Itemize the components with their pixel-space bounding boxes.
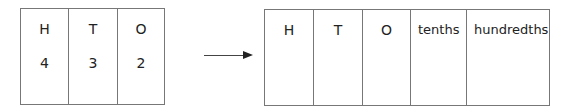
column-value: 2 — [118, 55, 164, 71]
arrow-right-icon — [204, 55, 246, 56]
column-header: tenths — [411, 22, 466, 37]
column-header: T — [314, 22, 362, 38]
column-ones: O — [363, 10, 411, 105]
column-hundreds: H 4 — [21, 9, 69, 104]
column-header: T — [69, 21, 117, 37]
column-header: H — [21, 21, 68, 37]
column-header: hundredths — [467, 22, 549, 37]
column-value: 4 — [21, 55, 68, 71]
place-value-table-before: H 4 T 3 O 2 — [20, 8, 165, 105]
arrow-head-icon — [243, 51, 253, 59]
column-tens: T — [314, 10, 363, 105]
column-value: 3 — [69, 55, 117, 71]
column-hundreds: H — [265, 10, 314, 105]
column-tens: T 3 — [69, 9, 118, 104]
column-tenths: tenths — [411, 10, 467, 105]
column-hundredths: hundredths — [467, 10, 549, 105]
column-header: H — [265, 22, 313, 38]
column-header: O — [363, 22, 410, 38]
place-value-table-after: H T O tenths hundredths — [264, 9, 550, 106]
column-ones: O 2 — [118, 9, 164, 104]
column-header: O — [118, 21, 164, 37]
